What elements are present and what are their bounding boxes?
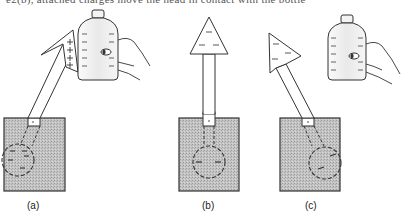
panel-label-c: (c)	[305, 200, 317, 211]
charged-bottle-c	[328, 15, 400, 84]
panel-a	[2, 10, 150, 191]
electroscope-diagram	[0, 0, 410, 216]
panel-b	[179, 17, 239, 191]
electroscope-case-b	[179, 118, 239, 191]
panel-label-b: (b)	[202, 200, 214, 211]
electroscope-case-a	[4, 118, 65, 191]
electroscope-case-c	[280, 118, 340, 191]
panel-c	[269, 15, 400, 191]
panel-label-a: (a)	[27, 200, 39, 211]
arrow-head-b	[190, 17, 228, 54]
charged-bottle-a	[78, 10, 150, 80]
